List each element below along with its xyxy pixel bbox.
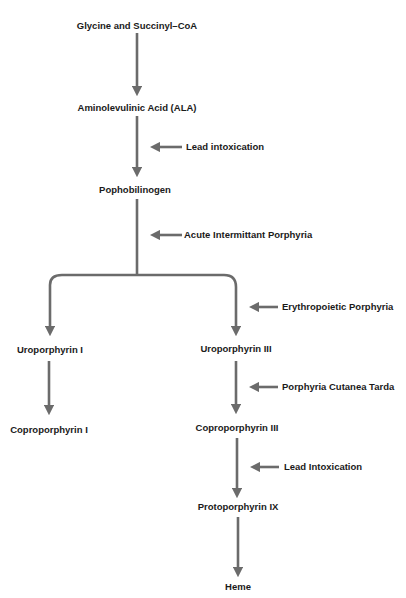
node-uroporphyrin-iii: Uroporphyrin III xyxy=(200,344,271,354)
label-erythropoietic-porphyria: Erythropoietic Porphyria xyxy=(282,302,393,312)
node-uroporphyrin-i: Uroporphyrin I xyxy=(17,345,83,355)
node-porphobilinogen: Pophobilinogen xyxy=(99,185,171,195)
node-coproporphyrin-i: Coproporphyrin I xyxy=(10,425,88,435)
label-lead-intoxication-1: Lead intoxication xyxy=(186,142,264,152)
node-coproporphyrin-iii: Coproporphyrin III xyxy=(196,423,279,433)
node-aminolevulinic-acid: Aminolevulinic Acid (ALA) xyxy=(78,103,197,113)
label-porphyria-cutanea-tarda: Porphyria Cutanea Tarda xyxy=(282,382,394,392)
branch-connector xyxy=(50,275,236,332)
label-lead-intoxication-2: Lead Intoxication xyxy=(284,462,362,472)
label-acute-intermittent-porphyria: Acute Intermittant Porphyria xyxy=(184,230,312,240)
node-protoporphyrin-ix: Protoporphyrin IX xyxy=(198,502,279,512)
node-glycine-succinyl-coa: Glycine and Succinyl–CoA xyxy=(77,21,197,31)
node-heme: Heme xyxy=(225,582,251,592)
